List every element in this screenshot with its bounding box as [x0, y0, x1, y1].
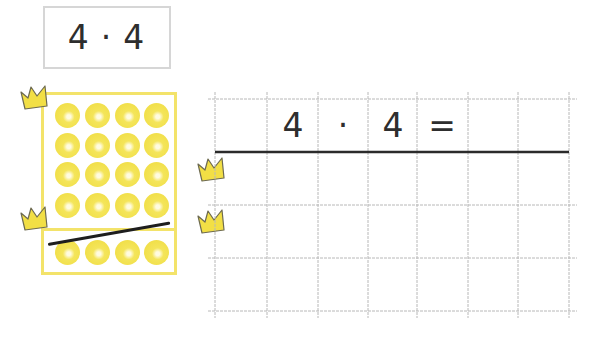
grid-cell-factor-1: 4	[268, 99, 318, 152]
grid-cell-factor-2: 4	[368, 99, 418, 152]
answer-cell[interactable]	[468, 99, 518, 152]
grid-cell-operator: ·	[318, 99, 368, 152]
writing-grid	[0, 0, 590, 338]
grid-cell-equals: =	[417, 99, 467, 152]
